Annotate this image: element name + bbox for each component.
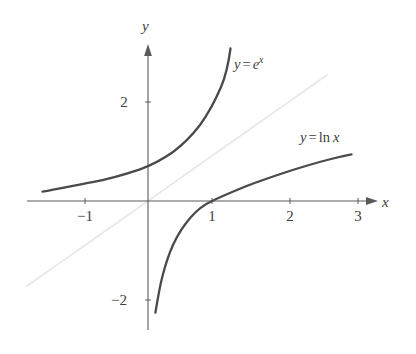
x-axis-label: x [382, 195, 389, 210]
x-tick-label-one: 1 [202, 209, 222, 224]
x-tick-label-two: 2 [280, 209, 300, 224]
ln-label-arg: x [330, 129, 339, 145]
ln-label-equals: = [306, 129, 318, 145]
x-axis-arrowhead [366, 197, 378, 205]
curve-logarithmic [155, 154, 351, 312]
curve-exponential [43, 49, 231, 192]
exp-label-equals: = [240, 56, 252, 72]
y-axis-arrowhead [144, 44, 152, 56]
function-graph-figure: x y −1 1 2 3 2 −2 y=ex y=lnx [0, 0, 416, 354]
x-tick-label-three: 3 [348, 209, 368, 224]
ln-label-fn: ln [319, 129, 330, 145]
curve-label-exponential: y=ex [234, 57, 263, 72]
y-tick-label-two: 2 [114, 95, 134, 110]
curve-label-logarithmic: y=lnx [300, 130, 339, 145]
reference-line-y-equals-x [27, 75, 327, 286]
exp-label-exponent: x [259, 54, 263, 65]
x-tick-label-neg-one: −1 [70, 209, 100, 224]
y-axis-label: y [142, 19, 149, 34]
y-tick-label-neg-two: −2 [104, 293, 134, 308]
plot-canvas [0, 0, 416, 354]
